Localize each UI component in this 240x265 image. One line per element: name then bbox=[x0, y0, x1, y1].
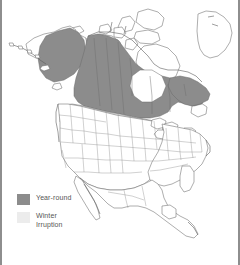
map-legend: Year-round Winter Irruption bbox=[17, 193, 127, 235]
legend-item-winter-irruption: Winter Irruption bbox=[17, 211, 127, 229]
canada-year-round-range bbox=[74, 34, 210, 118]
legend-label-year-round: Year-round bbox=[36, 193, 71, 202]
winter-irruption-swatch bbox=[17, 212, 30, 223]
year-round-swatch bbox=[17, 194, 30, 205]
right-edge-border bbox=[238, 0, 240, 265]
range-map-figure: .land { fill:#ffffff; stroke:#6a6a6a; st… bbox=[0, 0, 240, 265]
legend-item-year-round: Year-round bbox=[17, 193, 127, 205]
greenland bbox=[197, 11, 232, 58]
legend-label-winter-irruption: Winter Irruption bbox=[36, 211, 63, 229]
